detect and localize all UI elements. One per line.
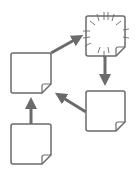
arrow-left-middle-to-top-right (51, 38, 78, 53)
arrow-right-bottom-to-left-middle (60, 96, 86, 112)
burst-document-icon (83, 12, 129, 58)
document-icon (11, 53, 51, 93)
diagram-canvas (0, 0, 137, 176)
document-icon (11, 124, 51, 164)
diagram-svg (0, 0, 137, 176)
document-icon (86, 91, 125, 131)
